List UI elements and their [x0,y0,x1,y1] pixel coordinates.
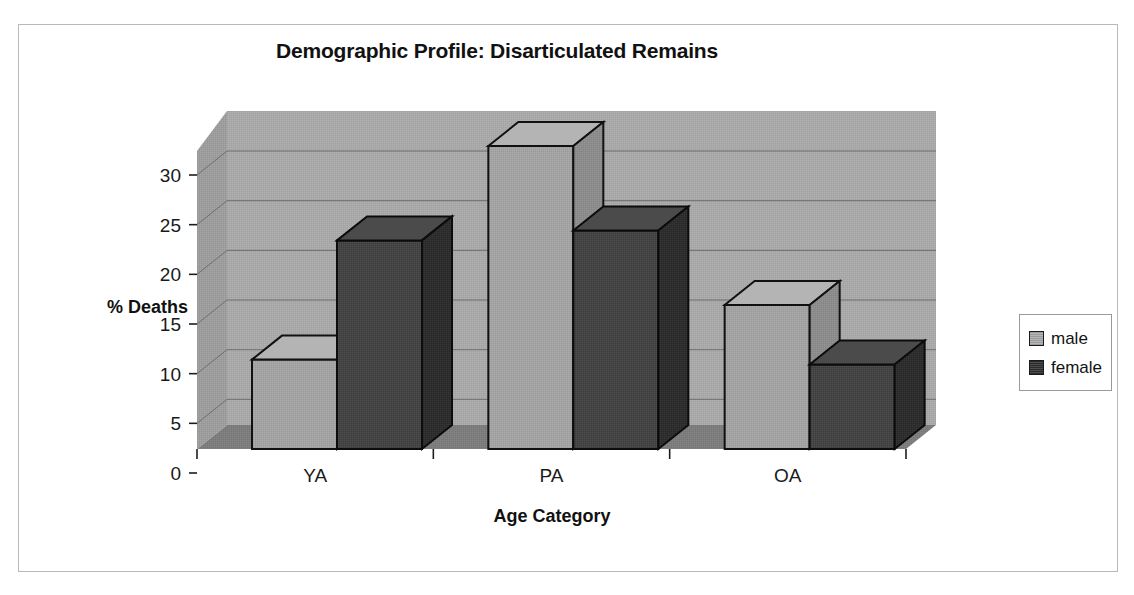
legend-swatch-female [1029,360,1044,375]
y-tick-20: 20 [160,264,181,285]
legend-label-female: female [1051,359,1102,376]
legend-swatch-male [1029,331,1044,346]
y-tick-25: 25 [160,215,181,236]
bar-ya-female [337,216,452,449]
y-tick-5: 5 [170,413,181,434]
x-tick-labels: YA PA OA [303,465,802,486]
x-tick-ya: YA [303,465,327,486]
chart-frame: Demographic Profile: Disarticulated Rema… [18,24,1118,572]
legend-label-male: male [1051,330,1088,347]
y-tick-15: 15 [160,314,181,335]
y-tick-0: 0 [170,463,181,484]
x-tick-oa: OA [774,465,802,486]
y-tick-labels: 30 25 20 15 10 5 0 [160,165,181,484]
bar-oa-female [810,341,925,449]
legend-item-male: male [1029,324,1111,353]
bar-pa-female [573,206,688,449]
y-tick-10: 10 [160,364,181,385]
plot-sidewall [197,111,227,449]
y-axis [189,175,197,473]
x-axis-title: Age Category [493,506,610,526]
chart-legend: male female [1019,314,1112,391]
y-axis-title: % Deaths [107,297,188,317]
chart-figure: Demographic Profile: Disarticulated Rema… [0,0,1134,595]
y-tick-30: 30 [160,165,181,186]
legend-item-female: female [1029,353,1111,382]
x-tick-pa: PA [540,465,564,486]
plot-area: 30 25 20 15 10 5 0 % Deaths YA PA OA Age… [19,25,1119,573]
x-axis [197,449,906,459]
